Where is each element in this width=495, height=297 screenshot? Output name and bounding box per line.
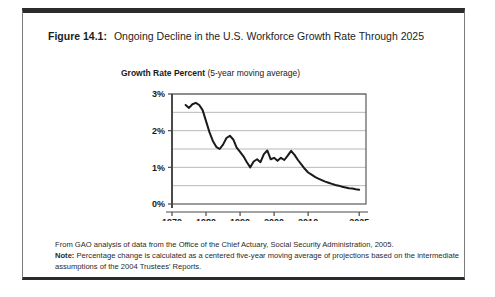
x-axis-ticks: 197019801990200020102025 (162, 212, 369, 221)
figure-title-block: Figure 14.1: Ongoing Decline in the U.S.… (48, 29, 438, 43)
figure-number-label: Figure 14.1: (48, 29, 114, 43)
x-tick-label: 1980 (196, 217, 216, 221)
note-label: Note: (55, 251, 74, 260)
x-tick-label: 1970 (162, 217, 182, 221)
footnote-block: From GAO analysis of data from the Offic… (55, 239, 475, 273)
y-tick-label: 3% (152, 89, 165, 99)
plot-frame (166, 94, 368, 212)
page-title: Ongoing Decline in the U.S. Workforce Gr… (114, 29, 438, 43)
x-tick-label: 2000 (264, 217, 284, 221)
title-row: Figure 14.1: Ongoing Decline in the U.S.… (48, 29, 438, 43)
chart-subtitle-regular: (5-year moving average) (205, 68, 300, 78)
chart-svg: 0%1%2%3% 197019801990200020102025 (126, 86, 376, 221)
methodology-note: Note: Percentage change is calculated as… (55, 250, 475, 272)
source-note: From GAO analysis of data from the Offic… (55, 239, 475, 250)
series-line (186, 103, 360, 190)
y-axis-ticks: 0%1%2%3% (152, 89, 172, 209)
y-tick-label: 1% (152, 163, 165, 173)
data-series (186, 103, 360, 190)
x-tick-label: 2025 (349, 217, 369, 221)
x-tick-label: 2010 (298, 217, 318, 221)
x-tick-label: 1990 (230, 217, 250, 221)
figure-container: Figure 14.1: Ongoing Decline in the U.S.… (22, 8, 465, 280)
note-text: Percentage change is calculated as a cen… (55, 251, 459, 271)
chart-subtitle-bold: Growth Rate Percent (121, 68, 205, 78)
line-chart: 0%1%2%3% 197019801990200020102025 (126, 86, 376, 221)
chart-subtitle: Growth Rate Percent (5-year moving avera… (121, 68, 300, 79)
y-tick-label: 2% (152, 126, 165, 136)
y-tick-label: 0% (152, 199, 165, 209)
